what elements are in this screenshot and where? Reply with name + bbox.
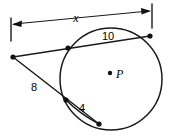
external-vertex-point [10, 54, 15, 59]
label-eight: 8 [31, 81, 37, 93]
lower-secant-far-point [96, 121, 101, 126]
geometry-diagram-svg: x 10 8 4 P [0, 0, 170, 138]
upper-secant-line [13, 36, 150, 57]
label-x: x [72, 11, 79, 25]
dimension-arrowhead-right [141, 8, 151, 14]
lower-secant-line [13, 57, 99, 124]
circle-center-dot [108, 71, 112, 75]
dimension-line-x [14, 11, 149, 24]
label-ten: 10 [102, 30, 114, 42]
lower-secant-near-point [63, 97, 68, 102]
upper-secant-far-point [147, 33, 152, 38]
circle-p [60, 28, 162, 130]
geometry-figure: x 10 8 4 P [0, 0, 170, 138]
label-four: 4 [79, 102, 85, 114]
upper-secant-near-point [65, 45, 70, 50]
label-center-p: P [115, 67, 124, 81]
